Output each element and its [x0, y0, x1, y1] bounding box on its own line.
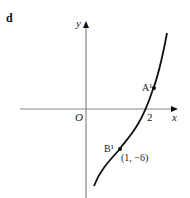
x-intercept-label: 2 — [147, 111, 153, 123]
graph-diagram: d y x O 2 A¹ B¹ (1, −6) — [0, 0, 190, 198]
point-a-marker — [152, 86, 156, 90]
y-axis-label: y — [75, 17, 81, 29]
point-b-coords: (1, −6) — [121, 152, 148, 164]
x-axis-label: x — [171, 111, 177, 123]
y-axis-arrow-icon — [83, 21, 89, 28]
point-b-label: B¹ — [104, 143, 114, 154]
part-label: d — [6, 11, 13, 25]
point-a-label: A¹ — [142, 82, 152, 93]
point-b-marker — [118, 147, 122, 151]
origin-label: O — [75, 111, 83, 123]
